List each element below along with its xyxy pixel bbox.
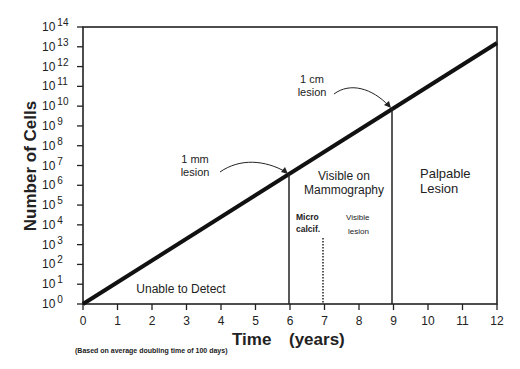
label-palpable-lesion: Lesion	[420, 181, 458, 196]
x-tick-label: 12	[490, 314, 504, 328]
y-tick-label: 106	[42, 175, 63, 192]
y-tick-label: 103	[42, 235, 63, 252]
label-palpable: Palpable	[420, 166, 471, 181]
x-tick-label: 10	[421, 314, 435, 328]
label-calcif: calcif.	[296, 224, 320, 234]
y-axis-ticks: 1001011021031041051061071081091010101110…	[42, 17, 83, 311]
label-1cm-lesion: lesion	[298, 86, 327, 98]
label-visible: Visible	[346, 213, 370, 222]
y-tick-label: 100	[42, 294, 63, 311]
x-tick-label: 8	[356, 314, 363, 328]
label-visible-on: Visible on	[318, 169, 370, 183]
x-tick-label: 0	[80, 314, 87, 328]
y-tick-label: 1014	[42, 17, 69, 34]
arrow-1cm	[334, 88, 389, 106]
x-tick-label: 5	[252, 314, 259, 328]
x-axis-title-units: (years)	[289, 330, 345, 349]
x-tick-label: 1	[114, 314, 121, 328]
y-tick-label: 101	[42, 274, 63, 291]
arrow-1mm	[220, 162, 286, 172]
label-lesion: lesion	[348, 227, 369, 236]
y-tick-label: 105	[42, 195, 63, 212]
x-tick-label: 11	[456, 314, 469, 328]
x-axis-title-time: Time	[232, 330, 271, 349]
arrowhead-1mm	[281, 167, 288, 174]
label-1mm: 1 mm	[181, 153, 209, 165]
y-tick-label: 1010	[42, 96, 69, 113]
x-tick-label: 4	[218, 314, 225, 328]
y-tick-label: 108	[42, 136, 63, 153]
y-tick-label: 1013	[42, 37, 69, 54]
y-tick-label: 104	[42, 215, 63, 232]
label-unable-to-detect: Unable to Detect	[136, 282, 226, 296]
label-1cm: 1 cm	[300, 73, 324, 85]
y-tick-label: 1012	[42, 57, 69, 74]
x-axis-ticks: 0123456789101112	[80, 304, 504, 328]
y-tick-label: 1011	[42, 76, 68, 93]
cell-growth-chart: 1001011021031041051061071081091010101110…	[0, 0, 520, 369]
y-tick-label: 102	[42, 254, 63, 271]
label-micro: Micro	[296, 212, 319, 222]
y-axis-title: Number of Cells	[21, 101, 40, 231]
label-1mm-lesion: lesion	[181, 166, 210, 178]
x-tick-label: 6	[287, 314, 294, 328]
y-tick-label: 107	[42, 156, 63, 173]
x-tick-label: 9	[390, 314, 397, 328]
x-tick-label: 3	[183, 314, 190, 328]
y-tick-label: 109	[42, 116, 63, 133]
x-tick-label: 2	[149, 314, 156, 328]
label-mammography: Mammography	[304, 183, 384, 197]
x-tick-label: 7	[321, 314, 328, 328]
footnote: (Based on average doubling time of 100 d…	[75, 347, 227, 355]
